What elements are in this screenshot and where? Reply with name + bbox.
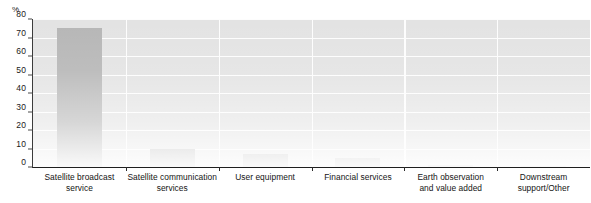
x-axis-label: Financial services [312, 172, 405, 183]
bar [521, 166, 566, 167]
x-axis-label-line: services [126, 183, 219, 194]
x-axis-label-line: Satellite communication [126, 172, 219, 183]
bar [335, 158, 380, 167]
x-axis-label: Satellite communicationservices [126, 172, 219, 194]
bar [243, 154, 288, 167]
category-separator [497, 19, 498, 167]
x-axis-label-line: Satellite broadcast [33, 172, 126, 183]
x-axis-label-line: Earth observation [404, 172, 497, 183]
y-axis-tick-label: 10 [16, 139, 26, 148]
category-separator [312, 19, 313, 167]
x-axis-tick-mark [126, 167, 127, 171]
x-axis-label-line: service [33, 183, 126, 194]
y-axis-tick-label: 80 [16, 10, 26, 19]
x-axis-label-line: User equipment [219, 172, 312, 183]
x-axis-tick-mark [219, 167, 220, 171]
y-axis-tick-label: 0 [21, 158, 26, 167]
x-axis-tick-mark [404, 167, 405, 171]
x-axis-tick-mark [312, 167, 313, 171]
y-axis-tick-label: 60 [16, 47, 26, 56]
y-axis-tick-label: 70 [16, 28, 26, 37]
bar [150, 149, 195, 168]
bar [428, 165, 473, 167]
y-axis-tick-label: 50 [16, 65, 26, 74]
x-axis-tick-mark [497, 167, 498, 171]
plot-area [33, 19, 590, 167]
y-axis-tick-label: 40 [16, 84, 26, 93]
x-axis-labels: Satellite broadcastserviceSatellite comm… [33, 172, 590, 202]
x-axis-label-line: and value added [404, 183, 497, 194]
x-axis-label: Satellite broadcastservice [33, 172, 126, 194]
x-axis-label-line: support/Other [497, 183, 590, 194]
x-axis-label: Earth observationand value added [404, 172, 497, 194]
plot-frame [32, 19, 590, 168]
y-axis: 01020304050607080 [0, 14, 34, 166]
category-separator [404, 19, 405, 167]
y-axis-tick-label: 30 [16, 102, 26, 111]
category-separator [219, 19, 220, 167]
bar-chart: % 01020304050607080 Satellite broadcasts… [0, 0, 591, 203]
x-axis-label: Downstreamsupport/Other [497, 172, 590, 194]
x-axis-label-line: Downstream [497, 172, 590, 183]
category-separator [126, 19, 127, 167]
x-axis-label-line: Financial services [312, 172, 405, 183]
y-axis-tick-label: 20 [16, 121, 26, 130]
x-axis-label: User equipment [219, 172, 312, 183]
bar [57, 28, 102, 167]
